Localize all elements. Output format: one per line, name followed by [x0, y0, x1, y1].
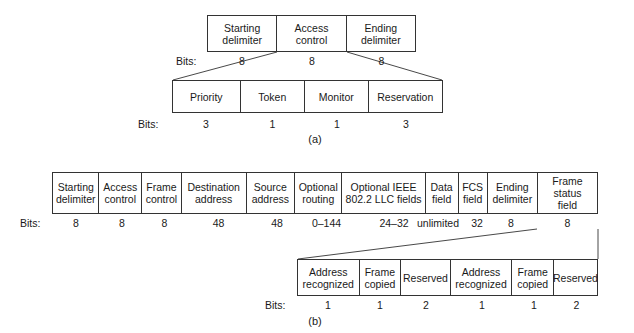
- bits-label: Bits:: [265, 298, 285, 312]
- field-cell: Reserved: [554, 260, 597, 295]
- field-cell: Ending delimiter: [488, 173, 538, 213]
- section-a-caption: (a): [285, 133, 345, 145]
- bits-value: 8: [207, 54, 277, 68]
- field-cell: Address recognized: [298, 260, 360, 295]
- bits-value: 2: [555, 298, 598, 312]
- bits-value: 8: [485, 216, 537, 230]
- field-cell: Address recognized: [451, 260, 513, 295]
- field-cell: Optional routing: [295, 173, 342, 213]
- section-a-top-row: Starting delimiter Access control Ending…: [207, 15, 416, 52]
- bits-value: 1: [513, 298, 555, 312]
- field-cell: Data field: [426, 173, 459, 213]
- bits-value: 8: [347, 54, 416, 68]
- field-cell: Reservation: [369, 81, 442, 112]
- section-b-frame-row: Starting delimiter Access control Frame …: [52, 172, 598, 214]
- section-a-top-bits-row: Bits: 8 8 8: [0, 54, 634, 68]
- field-cell: Frame control: [142, 173, 182, 213]
- bits-value: 8: [52, 216, 100, 230]
- bits-value: 1: [240, 117, 305, 131]
- section-a-detail-row: Priority Token Monitor Reservation: [172, 80, 443, 113]
- bits-value: unlimited: [410, 216, 466, 230]
- bits-value: 8: [144, 216, 185, 230]
- bits-label: Bits:: [176, 54, 196, 68]
- field-cell: Destination address: [182, 173, 247, 213]
- token-ring-frame-format-figure: Starting delimiter Access control Ending…: [0, 0, 634, 333]
- bits-value: 8: [537, 216, 598, 230]
- bits-value: 8: [277, 54, 347, 68]
- field-cell: Frame status field: [538, 173, 597, 213]
- bits-value: 48: [252, 216, 302, 230]
- section-a-detail-bits-row: Bits: 3 1 1 3: [0, 117, 634, 131]
- bits-value: 3: [369, 117, 443, 131]
- section-b-status-detail-row: Address recognized Frame copied Reserved…: [297, 259, 598, 296]
- field-cell: Source address: [247, 173, 295, 213]
- bits-value: 2: [401, 298, 451, 312]
- bits-value: 0–144: [302, 216, 351, 230]
- field-cell: Frame copied: [512, 260, 554, 295]
- bits-value: 3: [172, 117, 240, 131]
- field-cell: Token: [241, 81, 306, 112]
- field-cell: Reserved: [401, 260, 451, 295]
- field-cell: Frame copied: [360, 260, 402, 295]
- field-cell: Starting delimiter: [53, 173, 99, 213]
- bits-value: 48: [185, 216, 252, 230]
- bits-label: Bits:: [20, 216, 40, 230]
- field-cell: Access control: [277, 16, 346, 51]
- field-cell: Priority: [173, 81, 241, 112]
- bits-value: 1: [305, 117, 369, 131]
- bits-value: 1: [359, 298, 401, 312]
- bits-value: 8: [100, 216, 144, 230]
- field-cell: Access control: [99, 173, 142, 213]
- section-b-caption: (b): [285, 315, 345, 327]
- field-cell: FCS field: [459, 173, 488, 213]
- field-cell: Ending delimiter: [347, 16, 415, 51]
- bits-value: 1: [451, 298, 513, 312]
- bits-label: Bits:: [138, 117, 158, 131]
- section-b-status-bits-row: Bits: 1 1 2 1 1 2: [0, 298, 634, 312]
- field-cell: Starting delimiter: [208, 16, 277, 51]
- bits-value: 1: [297, 298, 359, 312]
- section-b-frame-bits-row: Bits: 8 8 8 48 48 0–144 24–32 unlimited …: [0, 216, 634, 230]
- field-cell: Monitor: [305, 81, 369, 112]
- field-cell: Optional IEEE 802.2 LLC fields: [342, 173, 425, 213]
